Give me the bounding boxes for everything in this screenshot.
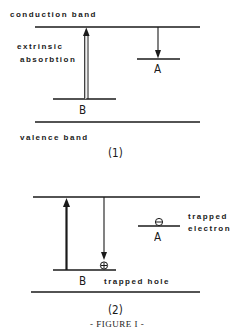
- hole-symbol-icon: [100, 262, 107, 269]
- trapped-hole-label: trapped hole: [104, 278, 170, 286]
- level-a-label-1: A: [154, 62, 161, 75]
- extrinsic-absorption-arrow: [83, 28, 90, 100]
- level-a-label-2: A: [154, 230, 161, 243]
- figure-caption: - FIGURE I -: [90, 320, 144, 329]
- recombination-arrow: [101, 197, 107, 260]
- electron-capture-arrow: [155, 27, 161, 59]
- conduction-band-label: conduction band: [10, 11, 97, 19]
- valence-band-label: valence band: [20, 134, 89, 142]
- electron-symbol-icon: [155, 218, 162, 225]
- band-diagram-figure: conduction band extrinsic absorbtion A B…: [0, 0, 248, 332]
- panel-2-label: (2): [108, 303, 123, 316]
- level-b-label-2: B: [79, 274, 86, 287]
- extrinsic-label: extrinsic: [17, 43, 63, 51]
- excitation-arrow: [63, 198, 70, 270]
- absorbtion-label: absorbtion: [20, 56, 76, 64]
- level-b-label-1: B: [79, 103, 86, 116]
- trapped-electron-label-line1: trapped: [188, 213, 228, 221]
- trapped-electron-label-line2: electron: [188, 225, 231, 233]
- panel-1-label: (1): [108, 146, 123, 159]
